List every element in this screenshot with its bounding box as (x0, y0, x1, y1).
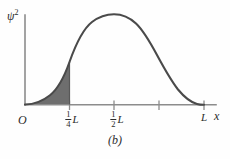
fraction-numerator: 1 (65, 110, 71, 119)
psi-squared-curve (25, 14, 204, 105)
figure-container: ψ2 O x 1 4 L 1 2 L L (b) (0, 0, 230, 159)
fraction-unit-L: L (118, 114, 124, 125)
fraction-one-half: 1 2 (110, 110, 116, 128)
fraction-numerator: 1 (110, 110, 116, 119)
origin-label: O (18, 114, 27, 126)
figure-caption: (b) (0, 134, 230, 146)
x-tick-label-full-L: L (201, 112, 207, 123)
x-tick-label-half-L: 1 2 L (110, 110, 123, 128)
x-axis-label: x (214, 110, 219, 122)
fraction-denominator: 2 (110, 119, 116, 129)
fraction-one-quarter: 1 4 (65, 110, 71, 128)
fraction-denominator: 4 (65, 119, 71, 129)
tick-unit-L: L (201, 112, 207, 123)
fraction-unit-L: L (73, 114, 79, 125)
y-axis-label-exponent: 2 (14, 8, 18, 17)
x-tick-label-quarter-L: 1 4 L (65, 110, 78, 128)
y-axis-label: ψ2 (7, 9, 18, 22)
